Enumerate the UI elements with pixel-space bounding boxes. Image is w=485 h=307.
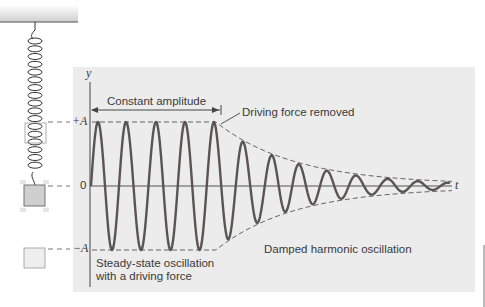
mass-equilibrium-position [20, 181, 49, 211]
t-axis-label: t [455, 179, 458, 192]
figure-canvas [0, 0, 485, 307]
steady-state-label: Steady-state oscillation with a driving … [96, 257, 214, 283]
driving-force-removed-label: Driving force removed [242, 106, 354, 119]
damped-oscillation-label: Damped harmonic oscillation [264, 243, 412, 256]
damped-oscillation-figure: y t +A 0 −A Constant amplitude Driving f… [0, 0, 485, 307]
y-axis-label: y [86, 67, 91, 80]
mass-bottom-position [24, 248, 45, 268]
constant-amplitude-label: Constant amplitude [107, 95, 206, 108]
zero-label: 0 [80, 179, 86, 192]
plus-a-label: +A [72, 115, 87, 128]
position-guide-lines [48, 122, 70, 249]
ceiling [0, 5, 78, 22]
spring [28, 22, 42, 185]
minus-a-label: −A [73, 242, 88, 255]
